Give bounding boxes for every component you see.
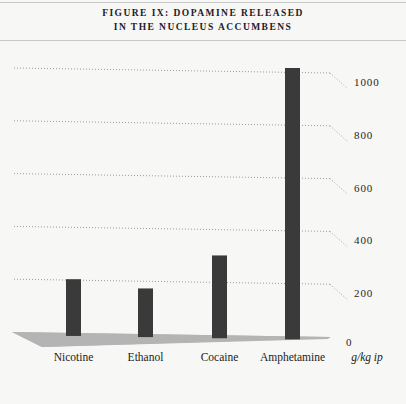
y-axis-tick-label: 800 bbox=[354, 129, 373, 141]
x-axis-category-label: Nicotine bbox=[54, 351, 94, 363]
tick-leader-line bbox=[330, 179, 348, 195]
x-axis-category-label: Amphetamine bbox=[260, 351, 325, 363]
tick-leader-line bbox=[330, 231, 348, 247]
bar bbox=[285, 68, 300, 339]
bar bbox=[138, 288, 153, 337]
y-axis-tick-label: 600 bbox=[354, 182, 373, 194]
gridline bbox=[14, 121, 330, 126]
tick-leader-line bbox=[330, 126, 348, 142]
y-axis-tick-label: 400 bbox=[354, 234, 373, 246]
gridline bbox=[14, 226, 330, 231]
figure-container: Figure IX: Dopamine Released in the Nucl… bbox=[0, 0, 406, 404]
y-axis-tick-label: 200 bbox=[354, 287, 373, 299]
y-axis-tick-label: 1000 bbox=[354, 76, 380, 88]
gridline bbox=[14, 68, 330, 73]
tick-leader-line bbox=[330, 73, 348, 89]
x-axis-category-label: Ethanol bbox=[128, 351, 164, 363]
x-axis-category-label: Cocaine bbox=[201, 351, 239, 363]
gridline bbox=[14, 279, 330, 284]
bar bbox=[212, 255, 227, 338]
gridline bbox=[14, 174, 330, 179]
axis-unit-label: g/kg ip bbox=[351, 351, 383, 363]
tick-leader-line bbox=[330, 284, 348, 300]
y-axis-tick-label: 0 bbox=[346, 336, 352, 348]
chart-baseline-ground-face bbox=[12, 332, 330, 347]
bar bbox=[66, 279, 81, 336]
